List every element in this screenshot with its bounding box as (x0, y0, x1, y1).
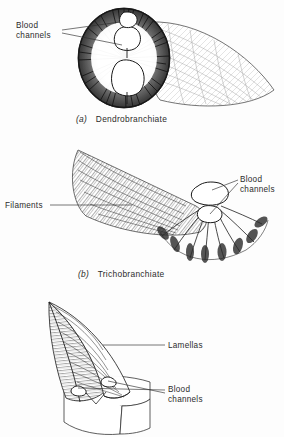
caption-panel-a: (a) Dendrobranchiate (76, 114, 167, 124)
label-filaments-b-text: Filaments (5, 201, 43, 210)
label-blood-channels-c-line1: Blood (168, 385, 190, 394)
label-blood-channels-c-line2: channels (168, 395, 203, 404)
caption-letter-a: (a) (76, 114, 87, 124)
label-blood-channels-b-line1: Blood (240, 175, 262, 184)
caption-text-b: Trichobranchiate (98, 269, 165, 279)
svg-text:(a) Dendrobranchiate: (a) Dendrobranchiate (76, 114, 167, 124)
caption-letter-b: (b) (78, 269, 89, 279)
label-lamellas-c-text: Lamellas (168, 341, 203, 350)
svg-text:(b) Trichobranchiate: (b) Trichobranchiate (78, 269, 165, 279)
label-blood-channels-b-line2: channels (240, 185, 275, 194)
gill-types-figure: Blood channels (a) Dendrobranchiate (0, 0, 284, 437)
label-blood-channels-a-line1: Blood (16, 21, 38, 30)
caption-text-a: Dendrobranchiate (96, 114, 167, 124)
caption-panel-b: (b) Trichobranchiate (78, 269, 165, 279)
label-blood-channels-a-line2: channels (16, 31, 51, 40)
